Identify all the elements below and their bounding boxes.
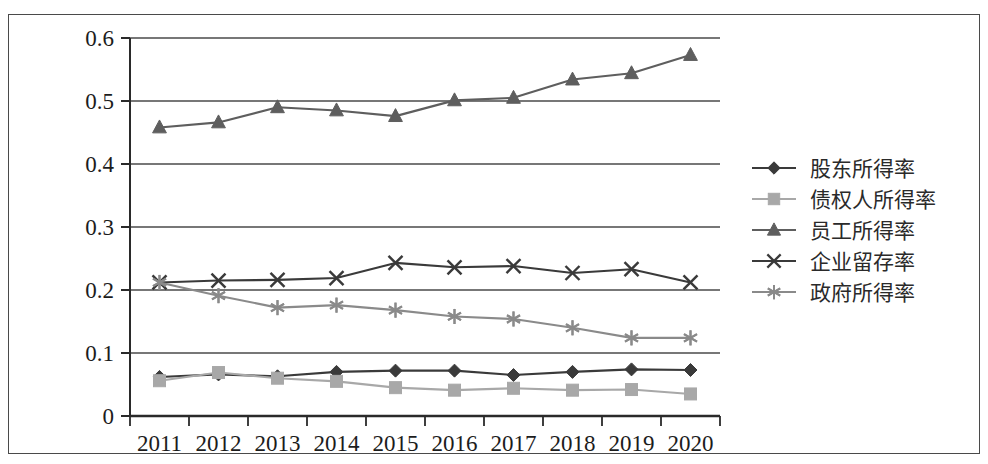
x-axis — [130, 416, 720, 426]
x-tick-label: 2013 — [255, 431, 301, 456]
y-tick-label: 0.5 — [85, 89, 114, 114]
series-line — [160, 55, 691, 127]
y-tick-label: 0.2 — [85, 278, 114, 303]
x-tick-label: 2012 — [196, 431, 242, 456]
series-asterisk — [153, 275, 697, 345]
y-tick-label: 0.6 — [85, 26, 114, 51]
legend-item-3[interactable]: 员工所得率 — [752, 219, 915, 243]
legend-item-1[interactable]: 股东所得率 — [752, 157, 915, 181]
y-tick-label: 0 — [103, 404, 115, 429]
data-point-marker-diamond — [389, 364, 402, 377]
data-point-marker-diamond — [684, 364, 697, 377]
legend-label: 股东所得率 — [810, 157, 915, 181]
data-point-marker-square — [768, 193, 779, 204]
data-point-marker-square — [449, 384, 461, 396]
legend-label: 企业留存率 — [810, 250, 915, 274]
series-x — [153, 256, 698, 290]
data-point-marker-diamond — [566, 365, 579, 378]
y-axis — [121, 38, 130, 416]
data-point-marker-square — [390, 382, 402, 394]
legend-item-2[interactable]: 债权人所得率 — [752, 188, 936, 212]
x-tick-label: 2016 — [432, 431, 478, 456]
line-chart: 00.10.20.30.40.50.6 20112012201320142015… — [0, 0, 988, 464]
x-tick-label: 2017 — [491, 431, 537, 456]
x-tick-label: 2020 — [668, 431, 714, 456]
data-point-marker-diamond — [507, 369, 520, 382]
legend-item-5[interactable]: 政府所得率 — [752, 281, 915, 305]
data-point-marker-square — [626, 384, 638, 396]
series-line — [160, 369, 691, 377]
data-point-marker-square — [331, 375, 343, 387]
gridlines — [130, 38, 720, 353]
chart-legend: 股东所得率债权人所得率员工所得率企业留存率政府所得率 — [752, 157, 936, 305]
y-tick-labels: 00.10.20.30.40.50.6 — [85, 26, 114, 429]
data-point-marker-square — [272, 372, 284, 384]
y-tick-label: 0.1 — [85, 341, 114, 366]
data-point-marker-diamond — [625, 363, 638, 376]
x-tick-label: 2014 — [314, 431, 361, 456]
data-point-marker-x — [684, 275, 698, 289]
series-triangle — [153, 48, 698, 133]
legend-item-4[interactable]: 企业留存率 — [752, 250, 915, 274]
x-tick-label: 2011 — [137, 431, 182, 456]
legend-label: 政府所得率 — [810, 281, 915, 305]
data-point-marker-square — [508, 382, 520, 394]
x-tick-labels: 2011201220132014201520162017201820192020 — [137, 431, 714, 456]
data-point-marker-square — [567, 384, 579, 396]
x-tick-label: 2015 — [373, 431, 419, 456]
data-point-marker-diamond — [768, 162, 780, 174]
data-point-marker-square — [213, 367, 225, 379]
figure-container: 00.10.20.30.40.50.6 20112012201320142015… — [0, 0, 988, 464]
legend-label: 债权人所得率 — [810, 188, 936, 212]
data-point-marker-square — [154, 375, 166, 387]
legend-label: 员工所得率 — [810, 219, 915, 243]
data-point-marker-triangle — [684, 48, 698, 61]
x-tick-label: 2018 — [550, 431, 596, 456]
series-line — [160, 263, 691, 283]
y-tick-label: 0.4 — [85, 152, 114, 177]
data-point-marker-diamond — [448, 364, 461, 377]
y-tick-label: 0.3 — [85, 215, 114, 240]
x-tick-label: 2019 — [609, 431, 655, 456]
data-point-marker-square — [685, 388, 697, 400]
